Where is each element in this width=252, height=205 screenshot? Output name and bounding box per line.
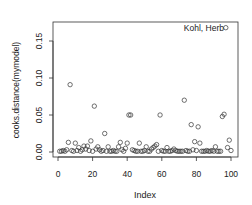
data-point (73, 141, 77, 145)
data-point (229, 148, 233, 152)
data-point (189, 122, 193, 126)
plot-frame (53, 22, 238, 157)
x-tick-label: 100 (224, 169, 238, 179)
data-point (227, 138, 231, 142)
y-tick-label: 0.00 (34, 143, 44, 160)
x-tick-label: 80 (192, 169, 202, 179)
data-point (158, 113, 162, 117)
data-point (68, 82, 72, 86)
data-point (198, 141, 202, 145)
data-point (137, 141, 141, 145)
data-point (213, 145, 217, 149)
y-tick-label: 0.15 (34, 32, 44, 49)
data-points (58, 25, 234, 153)
y-tick-label: 0.05 (34, 106, 44, 123)
data-point (125, 141, 129, 145)
data-point (66, 140, 70, 144)
y-axis-label: cooks.distance(mymodel) (11, 42, 21, 139)
data-point (192, 139, 196, 143)
point-annotation-label: Kohl, Herb (184, 23, 224, 33)
x-tick-label: 0 (56, 169, 61, 179)
x-tick-label: 40 (122, 169, 132, 179)
x-tick-label: 20 (88, 169, 98, 179)
y-tick-label: 0.10 (34, 69, 44, 86)
data-point (196, 125, 200, 129)
data-point (118, 140, 122, 144)
y-axis: 0.000.050.100.15 (34, 32, 53, 160)
x-axis: 020406080100 (56, 157, 239, 179)
data-point (106, 145, 110, 149)
data-point (89, 139, 93, 143)
scatter-plot: 020406080100 0.000.050.100.15 Index cook… (0, 0, 252, 205)
data-point (92, 104, 96, 108)
data-point (182, 98, 186, 102)
data-point (144, 145, 148, 149)
x-tick-label: 60 (157, 169, 167, 179)
data-point (103, 131, 107, 135)
x-axis-label: Index (134, 190, 157, 200)
data-point (224, 25, 228, 29)
